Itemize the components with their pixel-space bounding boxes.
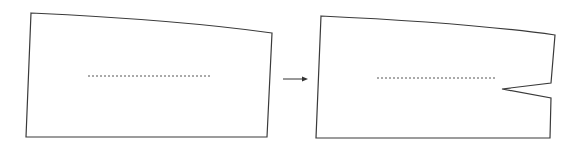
after-pattern-piece <box>316 16 555 138</box>
before-outline <box>26 13 272 137</box>
transform-arrow-icon <box>283 77 308 82</box>
before-pattern-piece <box>26 13 272 137</box>
after-outline <box>316 16 555 138</box>
diagram-svg <box>0 0 575 148</box>
diagram-canvas <box>0 0 575 148</box>
